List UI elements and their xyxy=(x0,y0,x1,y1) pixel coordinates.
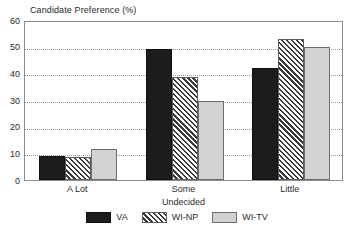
bar-va-a-lot xyxy=(39,156,65,180)
bar-wi-np-little xyxy=(278,39,304,180)
bar-wi-np-some xyxy=(172,77,198,180)
legend-item-wi-tv[interactable]: WI-TV xyxy=(212,212,268,223)
legend-swatch-wi-tv xyxy=(212,212,237,223)
bar-va-little xyxy=(252,68,278,180)
y-axis-tick-label: 20 xyxy=(0,122,20,132)
bar-wi-np-a-lot xyxy=(65,157,91,180)
bar-chart: Candidate Preference (%) 0102030405060 A… xyxy=(0,0,354,229)
y-axis-tick-label: 50 xyxy=(0,42,20,52)
bar-wi-tv-some xyxy=(198,101,224,180)
y-axis-tick-label: 10 xyxy=(0,149,20,159)
bar-va-some xyxy=(146,49,172,180)
bar-wi-tv-a-lot xyxy=(91,149,117,180)
x-axis-category-label: Little xyxy=(250,184,330,194)
legend-item-wi-np[interactable]: WI-NP xyxy=(142,212,199,223)
y-axis-tick-label: 40 xyxy=(0,69,20,79)
legend-label: VA xyxy=(116,212,127,222)
legend-swatch-va xyxy=(86,212,111,223)
bar-wi-tv-little xyxy=(304,47,330,180)
y-axis-tick-label: 0 xyxy=(0,176,20,186)
x-axis-category-label: A Lot xyxy=(37,184,117,194)
x-axis-category-label: Some xyxy=(144,184,224,194)
y-axis-tick-label: 30 xyxy=(0,96,20,106)
legend-swatch-wi-np xyxy=(142,212,167,223)
legend-label: WI-NP xyxy=(172,212,199,222)
chart-legend: VAWI-NPWI-TV xyxy=(0,209,354,225)
x-axis-title: Undecided xyxy=(124,197,244,207)
legend-item-va[interactable]: VA xyxy=(86,212,127,223)
legend-label: WI-TV xyxy=(242,212,268,222)
chart-title: Candidate Preference (%) xyxy=(30,5,136,15)
y-axis-tick-label: 60 xyxy=(0,16,20,26)
plot-area xyxy=(24,21,343,181)
